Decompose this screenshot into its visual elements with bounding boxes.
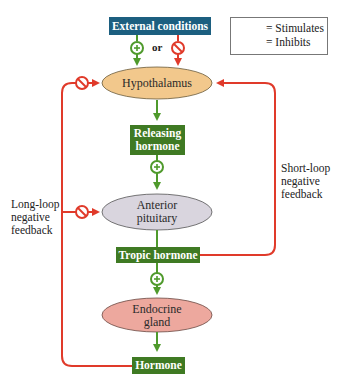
gland-label: Endocrine gland: [102, 302, 212, 330]
long-loop-line3: feedback: [11, 224, 60, 237]
releasing-hormone-line2: hormone: [135, 140, 179, 153]
hormone-box: Hormone: [132, 357, 185, 374]
gland-label-line2: gland: [144, 316, 171, 329]
legend-stimulates-label: = Stimulates: [266, 22, 324, 34]
long-loop-label: Long-loop negative feedback: [11, 198, 60, 237]
pituitary-label: Anterior pituitary: [102, 198, 212, 226]
stimulate-arrow-releasing: [151, 155, 163, 186]
inhibit-arrow-external: [172, 35, 184, 62]
releasing-hormone-line1: Releasing: [134, 127, 181, 140]
stimulate-arrow-external: [131, 35, 143, 62]
short-loop-feedback-line: [200, 83, 275, 255]
legend-inhibits-label: = Inhibits: [266, 36, 311, 48]
short-loop-label: Short-loop negative feedback: [281, 162, 330, 201]
tropic-hormone-box: Tropic hormone: [116, 247, 200, 263]
short-loop-line3: feedback: [281, 188, 330, 201]
stimulate-arrow-tropic: [151, 263, 163, 291]
long-loop-line2: negative: [11, 211, 60, 224]
hypothalamus-label: Hypothalamus: [102, 75, 212, 91]
external-conditions-box: External conditions: [109, 17, 211, 35]
short-loop-line1: Short-loop: [281, 162, 330, 175]
pituitary-label-line2: pituitary: [137, 212, 178, 225]
releasing-hormone-box: Releasing hormone: [130, 125, 185, 155]
long-loop-line1: Long-loop: [11, 198, 60, 211]
short-loop-line2: negative: [281, 175, 330, 188]
or-label: or: [152, 41, 162, 54]
